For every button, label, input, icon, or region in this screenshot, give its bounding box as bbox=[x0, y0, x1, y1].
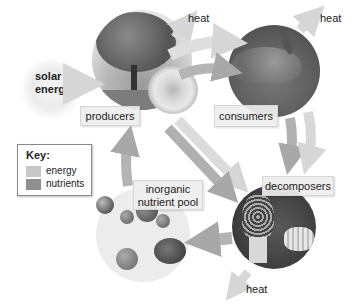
nutrient-arrow-cons-decomp bbox=[290, 118, 292, 160]
producers-label: producers bbox=[80, 106, 140, 126]
consumers-text: consumers bbox=[219, 110, 273, 122]
key-title: Key: bbox=[26, 149, 50, 161]
legend-key: Key: energy nutrients bbox=[17, 144, 92, 196]
nutrient-arrow-prod-cons bbox=[180, 68, 228, 75]
nutrient-arrow-decomp-pool bbox=[202, 238, 232, 241]
key-item-energy: energy bbox=[26, 165, 77, 177]
key-item-nutrients: nutrients bbox=[26, 178, 84, 190]
heat-arrow-consumers bbox=[300, 16, 314, 30]
heat-label-producers: heat bbox=[188, 12, 209, 24]
heat-arrow-producers bbox=[175, 22, 188, 38]
decomposers-label: decomposers bbox=[262, 176, 334, 196]
nutrients-key-label: nutrients bbox=[46, 178, 84, 189]
nutrient-pool-label: inorganic nutrient pool bbox=[133, 180, 203, 210]
energy-swatch bbox=[26, 166, 41, 177]
consumers-label: consumers bbox=[214, 105, 278, 127]
nutrients-swatch bbox=[26, 179, 41, 190]
energy-arrow-prod-cons bbox=[170, 42, 230, 55]
heat-label-consumers: heat bbox=[320, 12, 341, 24]
nutrient-pool-line1: inorganic bbox=[134, 183, 202, 196]
energy-arrow-cons-decomp bbox=[308, 112, 311, 160]
decomposers-text: decomposers bbox=[265, 180, 331, 192]
producers-text: producers bbox=[86, 110, 135, 122]
nutrient-pool-line2: nutrient pool bbox=[134, 196, 202, 209]
nutrient-arrow-pool-prod bbox=[126, 140, 128, 186]
energy-key-label: energy bbox=[46, 165, 77, 176]
heat-label-decomposers: heat bbox=[246, 283, 267, 295]
